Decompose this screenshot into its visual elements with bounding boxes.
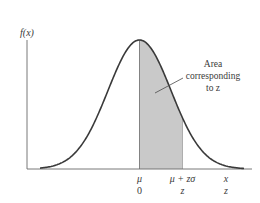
annotation-line-1: Area [204,59,223,69]
annotation-line-2: corresponding [186,71,241,81]
annotation-line-3: to z [206,83,220,93]
z-label-var: z [223,185,228,196]
x-label-var: x [223,173,229,184]
z-label-upper: z [180,185,185,196]
x-label-upper: μ + zσ [169,173,197,184]
z-label-mean: 0 [137,185,142,196]
normal-distribution-figure: f(x) Area corresponding to z μ μ + zσ x … [0,0,260,203]
y-axis-label: f(x) [20,27,35,39]
x-label-mean: μ [136,173,142,184]
